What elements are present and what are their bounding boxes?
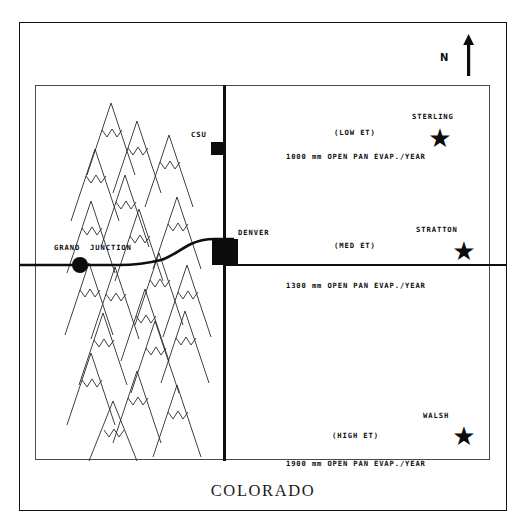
et-label-high: (HIGH ET) <box>332 431 379 440</box>
square-marker-csu[interactable] <box>211 142 224 155</box>
circle-marker-grand-junction[interactable] <box>72 257 88 273</box>
square-marker-denver[interactable] <box>212 239 238 265</box>
city-label-csu: CSU <box>191 130 207 139</box>
city-label-walsh: WALSH <box>423 411 449 420</box>
et-label-med: (MED ET) <box>334 241 376 250</box>
star-marker-stratton[interactable]: ★ <box>452 239 476 263</box>
star-marker-walsh[interactable]: ★ <box>452 424 476 448</box>
city-label-sterling: STERLING <box>412 112 454 121</box>
colorado-map-figure: ★ ★ ★ STERLING STRATTON WALSH CSU DENVER… <box>0 0 526 532</box>
north-arrow-icon <box>463 34 474 76</box>
city-label-stratton: STRATTON <box>416 225 458 234</box>
city-label-grand-junction-part2: JUNCTION <box>90 243 132 252</box>
north-label: N <box>440 52 448 63</box>
et-label-low: (LOW ET) <box>334 128 376 137</box>
star-marker-sterling[interactable]: ★ <box>428 126 452 150</box>
evaporation-label-north: 1000 mm OPEN PAN EVAP./YEAR <box>286 152 426 161</box>
city-label-grand-junction-part1: GRAND <box>54 243 80 252</box>
evaporation-label-central: 1300 mm OPEN PAN EVAP./YEAR <box>286 281 426 290</box>
city-label-denver: DENVER <box>238 228 269 237</box>
continental-divide-line <box>19 225 234 285</box>
evaporation-label-south: 1900 mm OPEN PAN EVAP./YEAR <box>286 459 426 468</box>
page-title: COLORADO <box>0 481 526 501</box>
